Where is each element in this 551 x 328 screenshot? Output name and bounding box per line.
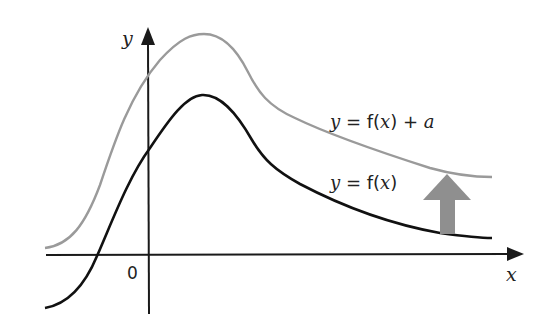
x-axis <box>46 247 524 261</box>
label-original-close: ) <box>390 172 397 193</box>
label-original-x: x <box>380 172 390 193</box>
translation-arrow-icon <box>423 174 471 234</box>
y-axis-arrowhead-icon <box>141 27 155 45</box>
x-axis-label: x <box>506 263 517 285</box>
label-translated-a: a <box>424 111 435 132</box>
label-original-eq: = f( <box>340 172 380 193</box>
curve-translated <box>45 34 492 248</box>
label-original-curve: y = f(x) <box>329 172 397 193</box>
label-translated-curve: y = f(x) + a <box>329 111 435 132</box>
label-translated-plus: ) + <box>390 111 424 132</box>
label-translated-x: x <box>380 111 390 132</box>
translation-diagram: y x 0 y = f(x) + a y = f(x) <box>0 0 551 328</box>
label-translated-eq: = f( <box>340 111 380 132</box>
y-axis-label: y <box>121 27 133 49</box>
x-axis-arrowhead-icon <box>507 247 524 261</box>
origin-label: 0 <box>127 263 138 283</box>
